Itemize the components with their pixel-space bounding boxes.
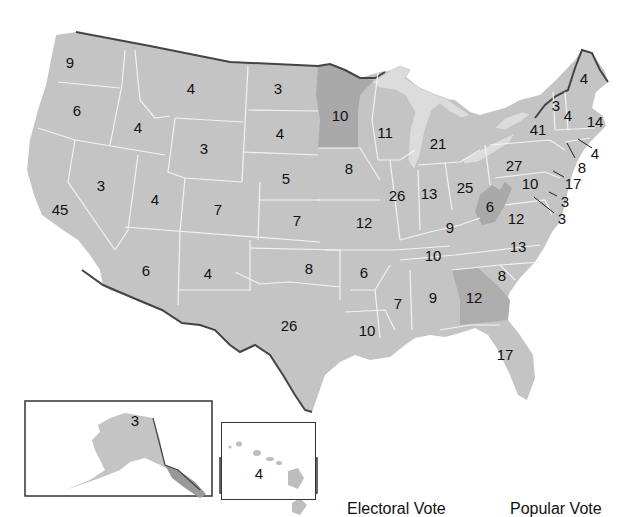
- state-label-montana: 4: [187, 80, 195, 97]
- state-label-idaho: 4: [134, 119, 142, 136]
- state-label-vermont: 3: [552, 97, 560, 114]
- state-label-massachusetts: 14: [587, 113, 604, 130]
- hawaii-inset: [221, 422, 316, 500]
- legend-electoral-vote: Electoral Vote: [347, 500, 446, 517]
- state-label-minnesota: 10: [332, 107, 349, 124]
- state-label-south-dakota: 4: [276, 125, 284, 142]
- state-label-new-mexico: 4: [204, 265, 212, 282]
- state-label-district-of-columbia: 3: [558, 210, 566, 227]
- state-label-virginia: 12: [508, 210, 525, 227]
- state-label-west-virginia: 6: [486, 198, 494, 215]
- state-label-mississippi: 7: [394, 295, 402, 312]
- state-label-texas: 26: [281, 317, 298, 334]
- state-label-missouri: 12: [356, 214, 373, 231]
- hawaii-map: [222, 423, 317, 501]
- state-label-illinois: 26: [389, 187, 406, 204]
- state-label-washington: 9: [66, 54, 74, 71]
- state-label-rhode-island: 4: [591, 145, 599, 162]
- state-label-tennessee: 10: [425, 247, 442, 264]
- state-label-maine: 4: [580, 70, 588, 87]
- state-label-new-york: 41: [530, 121, 547, 138]
- state-label-delaware: 3: [561, 193, 569, 210]
- state-label-iowa: 8: [345, 160, 353, 177]
- state-label-kentucky: 9: [446, 219, 454, 236]
- state-label-connecticut: 8: [578, 159, 586, 176]
- state-label-ohio: 25: [457, 179, 474, 196]
- state-label-california: 45: [52, 201, 69, 218]
- state-label-florida: 17: [497, 346, 514, 363]
- state-label-michigan: 21: [430, 135, 447, 152]
- state-label-kansas: 7: [293, 212, 301, 229]
- state-label-alaska: 3: [131, 412, 139, 429]
- state-label-louisiana: 10: [359, 322, 376, 339]
- state-label-south-carolina: 8: [498, 267, 506, 284]
- state-label-nevada: 3: [97, 177, 105, 194]
- legend-popular-vote: Popular Vote: [510, 500, 602, 517]
- state-label-utah: 4: [151, 191, 159, 208]
- state-label-oklahoma: 8: [305, 260, 313, 277]
- state-label-north-dakota: 3: [274, 80, 282, 97]
- state-label-colorado: 7: [214, 201, 222, 218]
- state-label-wisconsin: 11: [377, 124, 393, 141]
- state-label-maryland: 10: [522, 175, 539, 192]
- us-map: [0, 0, 637, 517]
- state-label-georgia: 12: [466, 289, 483, 306]
- state-label-north-carolina: 13: [510, 238, 527, 255]
- state-label-arizona: 6: [142, 262, 150, 279]
- state-label-wyoming: 3: [200, 140, 208, 157]
- state-label-oregon: 6: [73, 102, 81, 119]
- state-label-indiana: 13: [421, 185, 438, 202]
- state-label-alabama: 9: [429, 289, 437, 306]
- state-label-arkansas: 6: [360, 264, 368, 281]
- state-label-hawaii: 4: [255, 465, 263, 482]
- state-label-pennsylvania: 27: [506, 157, 523, 174]
- state-label-new-jersey: 17: [565, 175, 582, 192]
- state-label-new-hampshire: 4: [564, 107, 572, 124]
- state-label-nebraska: 5: [282, 170, 290, 187]
